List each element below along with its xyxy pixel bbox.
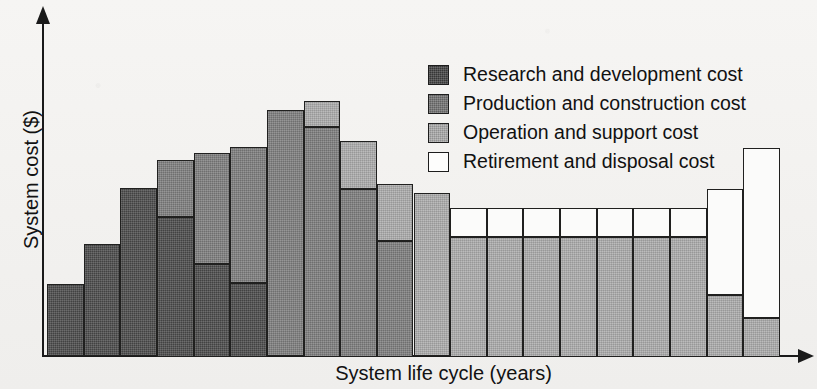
bar-segment-os [633,237,670,357]
bar-segment-rdd [707,189,744,295]
bar-column [47,284,84,356]
bar-column [707,189,744,356]
bar-segment-rdd [633,208,670,237]
bar-segment-rdd [487,208,524,237]
bar-segment-rd [47,284,84,356]
legend-swatch-icon-research-and-development [428,65,449,85]
bar-column [84,244,121,356]
bar-segment-pc [230,147,267,283]
bar-segment-os [414,193,451,356]
bar-segment-os [487,237,524,357]
legend-label-operation-and-support: Operation and support cost [463,123,698,143]
bar-segment-rdd [597,208,634,237]
legend-item-research-and-development: Research and development cost [428,62,808,88]
bar-segment-pc [157,160,194,217]
legend-label-research-and-development: Research and development cost [463,65,743,85]
bar-column [120,188,157,356]
bar-column [670,208,707,356]
bar-segment-rd [157,217,194,357]
bar-column [633,208,670,356]
bar-segment-os [560,237,597,357]
bar-column [743,148,780,356]
system-life-cycle-cost-chart: System cost ($) System life cycle (years… [0,0,817,389]
bar-column [414,193,451,356]
bar-column [267,110,304,356]
bar-segment-os [597,237,634,357]
bar-segment-rd [230,283,267,357]
legend-swatch-icon-operation-and-support [428,123,449,143]
bar-segment-rdd [450,208,487,237]
x-axis-arrow-icon [798,349,814,363]
bar-segment-rd [84,244,121,356]
legend-swatch-icon-retirement-and-disposal [428,152,449,172]
bar-column [377,184,414,356]
bar-column [157,160,194,356]
bar-column [194,153,231,356]
legend-label-production-and-construction: Production and construction cost [463,94,746,114]
bar-segment-os [743,318,780,357]
bar-column [487,208,524,356]
legend-swatch-icon-production-and-construction [428,94,449,114]
legend-item-production-and-construction: Production and construction cost [428,91,808,117]
bar-segment-pc [377,241,414,357]
bar-segment-pc [194,153,231,264]
legend-item-operation-and-support: Operation and support cost [428,120,808,146]
bar-column [230,147,267,356]
bar-segment-os [670,237,707,357]
bar-segment-rdd [523,208,560,237]
bar-column [560,208,597,356]
bar-column [340,141,377,356]
bar-segment-rd [194,264,231,357]
bar-segment-rdd [670,208,707,237]
bar-segment-rd [120,188,157,356]
x-axis-label: System life cycle (years) [0,362,817,385]
bar-column [523,208,560,356]
bar-segment-pc [267,110,304,356]
y-axis-label: System cost ($) [20,65,43,295]
bar-segment-pc [340,189,377,357]
bar-segment-os [304,101,341,127]
bar-column [304,101,341,356]
bar-column [597,208,634,356]
bar-segment-os [450,237,487,357]
bar-segment-os [377,184,414,241]
bar-segment-os [523,237,560,357]
bar-segment-pc [304,127,341,357]
bar-column [450,208,487,356]
bar-segment-os [707,295,744,357]
bar-segment-rdd [560,208,597,237]
chart-legend: Research and development cost Production… [428,62,808,178]
legend-item-retirement-and-disposal: Retirement and disposal cost [428,149,808,175]
bar-segment-os [340,141,377,189]
legend-label-retirement-and-disposal: Retirement and disposal cost [463,152,714,172]
